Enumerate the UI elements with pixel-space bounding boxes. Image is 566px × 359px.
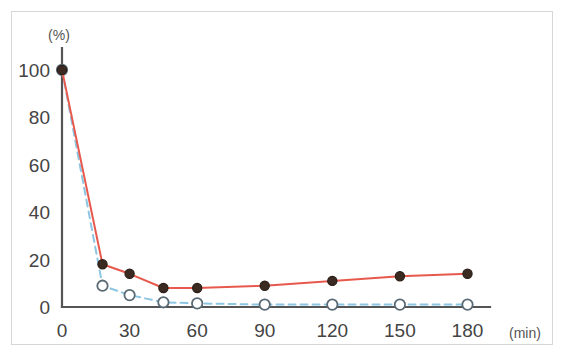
data-point-solid-red-series-120 xyxy=(328,276,337,285)
y-tick-label-80: 80 xyxy=(29,107,50,128)
data-point-dashed-blue-series-60 xyxy=(192,298,202,308)
x-tick-label-120: 120 xyxy=(316,320,348,341)
data-point-solid-red-series-18 xyxy=(98,260,107,269)
data-point-dashed-blue-series-150 xyxy=(395,299,405,309)
x-tick-label-150: 150 xyxy=(384,320,416,341)
y-axis-unit-label: (%) xyxy=(48,27,70,43)
y-tick-label-60: 60 xyxy=(29,155,50,176)
y-tick-label-100: 100 xyxy=(18,60,50,81)
x-tick-label-90: 90 xyxy=(254,320,275,341)
x-axis-unit-label: (min) xyxy=(509,325,541,341)
data-point-dashed-blue-series-18 xyxy=(97,281,107,291)
data-point-solid-red-series-60 xyxy=(193,283,202,292)
data-point-solid-red-series-45 xyxy=(159,283,168,292)
data-point-dashed-blue-series-45 xyxy=(158,297,168,307)
data-point-solid-red-series-180 xyxy=(463,269,472,278)
series-line-dashed-blue-series xyxy=(62,70,468,305)
data-point-solid-red-series-30 xyxy=(125,269,134,278)
x-tick-label-30: 30 xyxy=(119,320,140,341)
data-point-dashed-blue-series-120 xyxy=(327,299,337,309)
data-point-dashed-blue-series-30 xyxy=(124,290,134,300)
data-point-solid-red-series-150 xyxy=(395,272,404,281)
data-point-solid-red-series-90 xyxy=(260,281,269,290)
line-chart-plot: 0204060801000306090120150180(%)(min) xyxy=(0,0,566,359)
series-line-solid-red-series xyxy=(62,70,468,288)
x-tick-label-180: 180 xyxy=(452,320,484,341)
x-tick-label-60: 60 xyxy=(187,320,208,341)
x-tick-label-0: 0 xyxy=(57,320,68,341)
data-point-dashed-blue-series-90 xyxy=(260,299,270,309)
chart-figure: 0204060801000306090120150180(%)(min) xyxy=(0,0,566,359)
y-tick-label-0: 0 xyxy=(39,297,50,318)
data-point-solid-red-series-0 xyxy=(57,65,66,74)
data-point-dashed-blue-series-180 xyxy=(462,299,472,309)
y-tick-label-40: 40 xyxy=(29,202,50,223)
y-tick-label-20: 20 xyxy=(29,250,50,271)
